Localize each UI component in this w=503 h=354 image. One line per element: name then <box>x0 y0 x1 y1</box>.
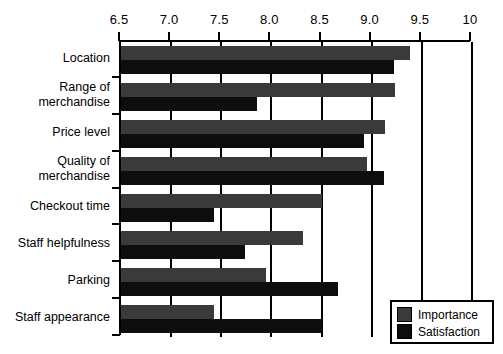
bar-importance <box>121 46 410 60</box>
plot-area <box>119 40 470 335</box>
bar-satisfaction <box>121 97 257 111</box>
legend-item-importance: Importance <box>397 306 487 323</box>
legend-label-importance: Importance <box>418 308 478 322</box>
x-tick-label: 9.0 <box>360 12 379 27</box>
category-label: Staff appearance <box>15 309 110 324</box>
x-tick-label: 8.5 <box>310 12 329 27</box>
bar-importance <box>121 231 303 245</box>
importance-satisfaction-bar-chart: 6.57.07.58.08.59.09.510 LocationRange of… <box>0 0 503 354</box>
category-label: Location <box>63 51 110 66</box>
x-tick-label: 7.5 <box>210 12 229 27</box>
x-tick-label: 6.5 <box>110 12 129 27</box>
bar-importance <box>121 268 266 282</box>
category-label: Checkout time <box>30 198 110 213</box>
bar-importance <box>121 157 367 171</box>
gridline <box>471 42 473 337</box>
bar-satisfaction <box>121 134 364 148</box>
chart-legend: Importance Satisfaction <box>390 300 494 344</box>
x-tick-label: 10 <box>463 12 478 27</box>
legend-swatch-importance <box>397 307 412 322</box>
bar-importance <box>121 120 385 134</box>
bar-satisfaction <box>121 319 322 333</box>
bar-importance <box>121 305 214 319</box>
bar-satisfaction <box>121 245 245 259</box>
x-tick-label: 9.5 <box>411 12 430 27</box>
category-label: Quality of merchandise <box>38 154 110 184</box>
legend-swatch-satisfaction <box>397 324 412 339</box>
category-label: Staff helpfulness <box>18 235 110 250</box>
category-label: Range of merchandise <box>38 80 110 110</box>
bar-satisfaction <box>121 208 214 222</box>
bar-satisfaction <box>121 171 384 185</box>
x-tick-label: 7.0 <box>160 12 179 27</box>
bar-satisfaction <box>121 60 394 74</box>
legend-item-satisfaction: Satisfaction <box>397 323 487 340</box>
bar-importance <box>121 83 395 97</box>
bar-satisfaction <box>121 282 338 296</box>
category-label: Parking <box>68 272 110 287</box>
gridline <box>421 42 423 337</box>
x-tick-label: 8.0 <box>260 12 279 27</box>
bar-importance <box>121 194 322 208</box>
category-label: Price level <box>52 125 110 140</box>
legend-label-satisfaction: Satisfaction <box>418 325 480 339</box>
